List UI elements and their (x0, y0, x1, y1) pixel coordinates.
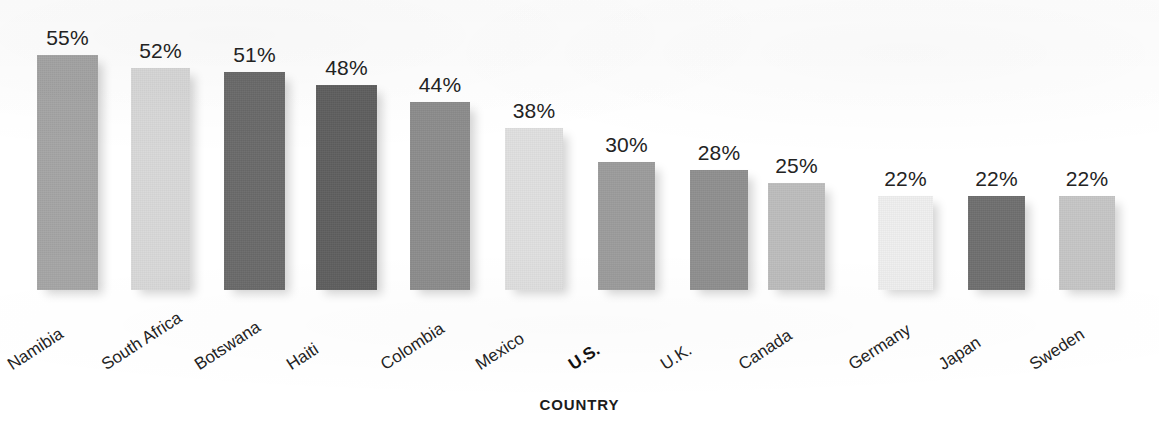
bar-value-label: 30% (586, 133, 667, 157)
category-label-germany: Germany (845, 320, 915, 375)
bar-value-label: 28% (678, 141, 760, 165)
category-label-mexico: Mexico (472, 329, 528, 375)
category-label-colombia: Colombia (377, 319, 448, 375)
category-label-namibia: Namibia (4, 324, 67, 375)
bar-south-africa (131, 68, 190, 290)
bar-sweden (1059, 196, 1115, 290)
bar-value-label: 38% (493, 99, 575, 123)
bar-canada (768, 183, 825, 290)
bar-value-label: 51% (212, 43, 297, 67)
bar-mexico (505, 128, 563, 290)
bar-value-label: 55% (25, 26, 110, 50)
bar-value-label: 22% (956, 167, 1037, 191)
bar-u-s (598, 162, 655, 290)
bar-u-k (690, 170, 748, 290)
bar-value-label: 44% (398, 73, 482, 97)
category-label-haiti: Haiti (283, 339, 322, 374)
bar-colombia (410, 102, 470, 290)
x-axis-title: COUNTRY (0, 396, 1159, 413)
category-label-japan: Japan (935, 333, 985, 375)
category-label-south-africa: South Africa (98, 308, 186, 375)
category-label-canada: Canada (735, 326, 796, 375)
bar-value-label: 48% (304, 56, 389, 80)
bar-value-label: 22% (866, 167, 945, 191)
bar-value-label: 22% (1047, 167, 1127, 191)
category-label-u-s: U.S. (565, 340, 604, 375)
category-label-botswana: Botswana (191, 317, 265, 374)
bar-japan (968, 196, 1025, 290)
bar-botswana (224, 72, 285, 290)
bar-value-label: 52% (119, 39, 202, 63)
bar-value-label: 25% (756, 154, 837, 178)
bar-germany (878, 196, 933, 290)
bar-haiti (316, 85, 377, 290)
bar-chart: 55%Namibia52%South Africa51%Botswana48%H… (0, 0, 1159, 439)
category-label-sweden: Sweden (1026, 325, 1088, 375)
bar-namibia (37, 55, 98, 290)
category-label-u-k: U.K. (657, 340, 696, 375)
